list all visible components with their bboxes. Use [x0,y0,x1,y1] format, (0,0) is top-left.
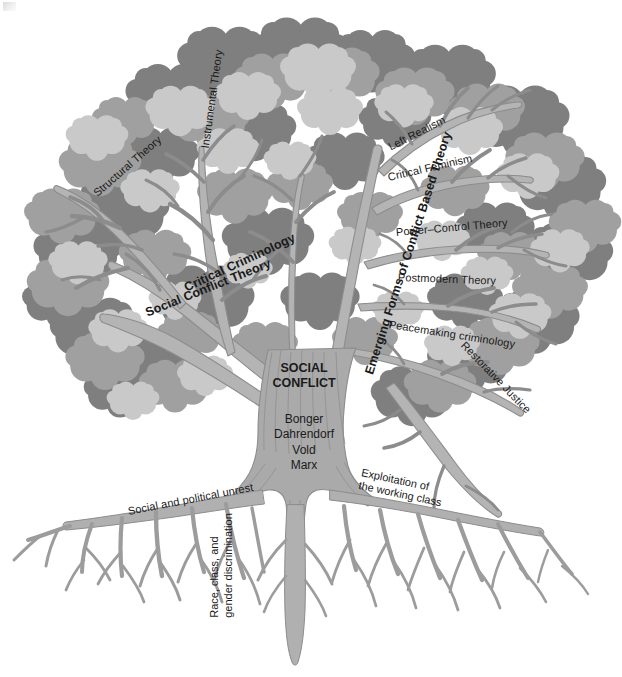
theorist-vold: Vold [264,443,344,458]
root-label-race-class-line2: gender discrimination [222,513,236,618]
root-system [14,490,588,665]
trunk-core-label: SOCIAL CONFLICT [268,361,340,391]
theorist-dahrendorf: Dahrendorf [264,427,344,442]
trunk-core-label-line2: CONFLICT [268,376,340,391]
trunk-core-label-line1: SOCIAL [268,361,340,376]
tree-diagram-figure: Social Conflict Theory Critical Criminol… [0,0,622,677]
trunk-theorist-list: Bonger Dahrendorf Vold Marx [264,412,344,473]
theorist-bonger: Bonger [264,412,344,427]
root-race-class-gender [285,505,306,665]
root-label-race-class-line1: Race, class, and [208,513,222,618]
root-label-race-class-and-gender-discrimination[interactable]: Race, class, and gender discrimination [208,513,236,618]
theorist-marx: Marx [264,458,344,473]
tree-illustration [0,0,622,677]
